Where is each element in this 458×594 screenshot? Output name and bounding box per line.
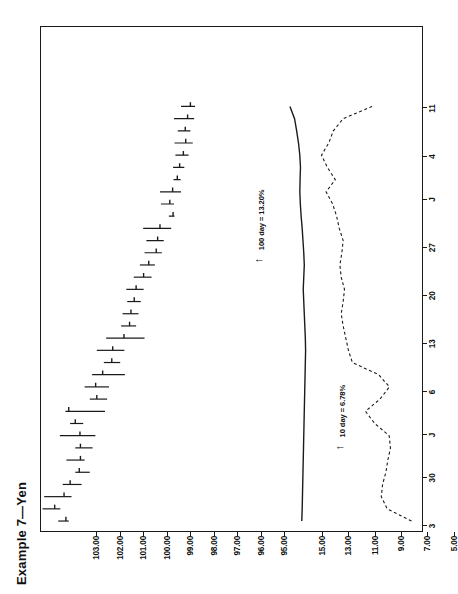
volatility-axis-tickmark [322,532,323,536]
volatility-10day-line [321,106,411,521]
date-axis-tickmark [423,525,427,526]
page-title: Example 7—Yen [14,482,29,585]
volatility-axis-tick: 9.00 [396,536,405,551]
date-axis-tick: 6 [428,390,437,395]
date-axis-tick: 30 [428,473,437,482]
volatility-100day-line [290,106,306,521]
price-axis-tick: 100.00 [162,536,171,560]
price-axis-tick: 96.00 [256,536,265,556]
value-axis: 103.00102.00101.00100.0099.0098.0097.009… [40,532,423,594]
volatility-axis-tick: 5.00 [449,536,458,551]
date-axis-tickmark [423,477,427,478]
price-axis-tick: 98.00 [209,536,218,556]
date-axis-tick: 13 [428,339,437,348]
volatility-axis-tick: 7.00 [423,536,432,551]
date-axis: 330J6132027J411 [423,26,449,532]
date-axis-tick: 3 [428,524,437,529]
date-axis-tick: 4 [428,154,437,159]
price-axis-tickmark [190,532,191,536]
volatility-axis-tickmark [375,532,376,536]
date-axis-tickmark [423,295,427,296]
date-axis-tickmark [423,343,427,344]
price-axis-tick: 102.00 [115,536,124,560]
price-axis-tick: 97.00 [233,536,242,556]
volatility-axis-tickmark [427,532,428,536]
price-axis-tickmark [261,532,262,536]
volatility-axis-tick: 11.00 [370,536,379,555]
price-axis-tickmark [96,532,97,536]
date-axis-tick: J [428,197,437,202]
volatility-axis-tick: 13.00 [344,536,353,556]
annotation-100day: 100 day = 13.20% [257,189,266,250]
date-axis-tickmark [423,247,427,248]
volatility-axis-tickmark [454,532,455,536]
date-axis-tickmark [423,199,427,200]
date-axis-tick: 11 [428,104,437,113]
date-axis-tickmark [423,391,427,392]
date-axis-tick: 20 [428,291,437,300]
price-axis-tickmark [120,532,121,536]
price-axis-tick: 101.00 [139,536,148,560]
volatility-lines-layer [41,27,422,531]
price-axis-tickmark [284,532,285,536]
date-axis-tickmark [423,434,427,435]
volatility-axis-tickmark [348,532,349,536]
price-axis-tick: 99.00 [186,536,195,556]
volatility-axis-tick: 15.00 [317,536,326,556]
plot-area: 100 day = 13.20%↑10 day = 6.78%↑ [40,26,423,532]
annotation-100day-arrow-icon: ↑ [253,258,264,264]
date-axis-tickmark [423,107,427,108]
date-axis-tick: J [428,433,437,438]
price-axis-tickmark [143,532,144,536]
price-axis-tickmark [237,532,238,536]
price-axis-tickmark [167,532,168,536]
annotation-10day: 10 day = 6.78% [338,385,347,437]
volatility-axis-tickmark [401,532,402,536]
annotation-10day-arrow-icon: ↑ [334,445,345,451]
date-axis-tickmark [423,156,427,157]
price-axis-tick: 103.00 [92,536,101,560]
date-axis-tick: 27 [428,243,437,252]
price-axis-tickmark [214,532,215,536]
price-axis-tick: 95.00 [280,536,289,556]
